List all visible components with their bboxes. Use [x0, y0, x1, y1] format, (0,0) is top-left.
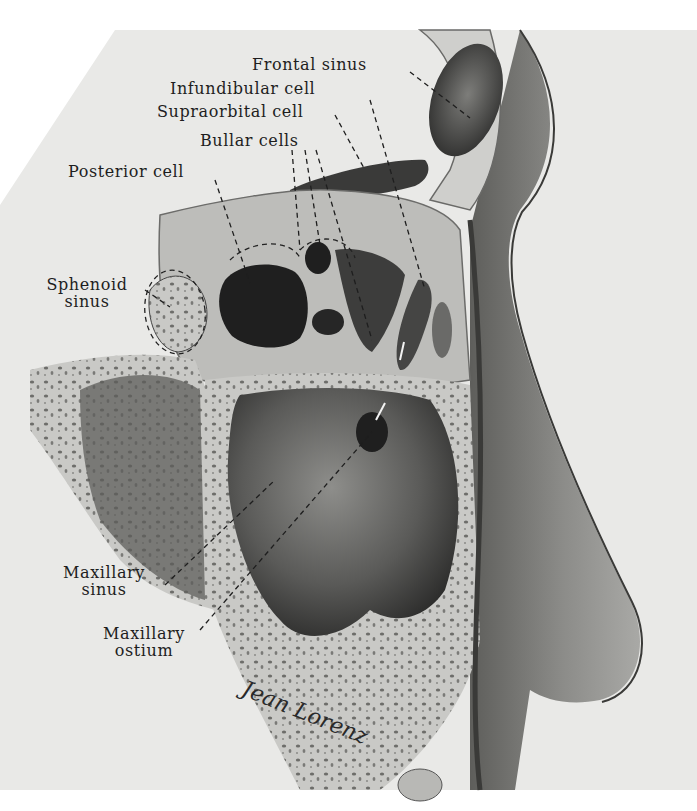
label-maxillary-ostium: Maxillary ostium: [85, 625, 203, 659]
label-maxillary-ostium-line2: ostium: [85, 642, 203, 659]
sinus-illustration: Frontal sinus Infundibular cell Supraorb…: [0, 0, 697, 811]
label-maxillary-sinus: Maxillary sinus: [45, 564, 163, 598]
label-maxillary-ostium-line1: Maxillary: [85, 625, 203, 642]
alveolar-root: [398, 769, 442, 801]
label-supraorbital-cell: Supraorbital cell: [157, 103, 303, 120]
label-sphenoid-line1: Sphenoid: [38, 276, 136, 293]
label-sphenoid-sinus: Sphenoid sinus: [38, 276, 136, 310]
bullar-cell-1: [305, 242, 331, 274]
uncinate-cell: [432, 302, 452, 358]
posterior-cell-shape: [219, 264, 308, 347]
label-frontal-sinus: Frontal sinus: [252, 56, 367, 73]
label-bullar-cells: Bullar cells: [200, 132, 299, 149]
bullar-cell-2: [312, 309, 344, 335]
label-maxillary-sinus-line1: Maxillary: [45, 564, 163, 581]
label-sphenoid-line2: sinus: [38, 293, 136, 310]
label-infundibular-cell: Infundibular cell: [170, 80, 315, 97]
anatomy-drawing: [0, 0, 697, 811]
label-maxillary-sinus-line2: sinus: [45, 581, 163, 598]
label-posterior-cell: Posterior cell: [68, 163, 184, 180]
